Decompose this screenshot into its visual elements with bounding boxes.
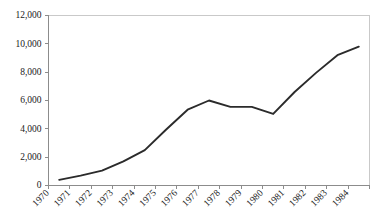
y-tick-label: 2,000 xyxy=(20,152,42,162)
x-tick-label: 1981 xyxy=(266,188,287,209)
y-tick-label: 8,000 xyxy=(20,67,42,77)
x-tick-label: 1980 xyxy=(244,188,265,209)
x-tick-label: 1978 xyxy=(202,188,223,209)
y-tick-label: 4,000 xyxy=(20,124,42,134)
x-tick-label: 1972 xyxy=(73,188,94,209)
y-tick-label: 0 xyxy=(37,180,42,190)
y-axis-tick-labels: 02,0004,0006,0008,00010,00012,000 xyxy=(15,10,41,190)
x-tick-label: 1973 xyxy=(95,188,116,209)
x-tick-label: 1977 xyxy=(180,188,201,209)
y-tick-label: 10,000 xyxy=(15,39,41,49)
x-tick-label: 1970 xyxy=(30,188,51,209)
x-tick-label: 1983 xyxy=(309,188,330,209)
x-axis-tick-labels: 1970197119721973197419751976197719781979… xyxy=(30,188,350,209)
x-tick-label: 1984 xyxy=(330,188,351,209)
line-chart: 02,0004,0006,0008,00010,00012,000 197019… xyxy=(0,0,381,224)
x-tick-label: 1982 xyxy=(287,188,308,209)
x-tick-label: 1979 xyxy=(223,188,244,209)
x-tick-label: 1975 xyxy=(137,188,158,209)
y-tick-label: 6,000 xyxy=(20,95,42,105)
y-axis-ticks xyxy=(45,16,49,186)
x-tick-label: 1971 xyxy=(52,188,73,209)
x-tick-label: 1974 xyxy=(116,188,137,209)
x-tick-label: 1976 xyxy=(159,188,180,209)
y-tick-label: 12,000 xyxy=(15,10,41,20)
data-series xyxy=(59,47,359,180)
chart-canvas: 02,0004,0006,0008,00010,00012,000 197019… xyxy=(0,0,381,224)
